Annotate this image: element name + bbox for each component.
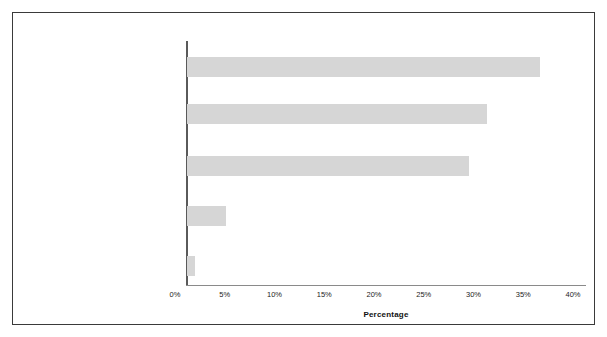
x-axis-line: [186, 285, 586, 286]
figure-container: Neglect only (35.5%) Multiple maltreatme…: [0, 0, 607, 337]
x-axis-title: Percentage: [186, 310, 586, 319]
bar-phychological-other-unknown-only: [187, 206, 226, 226]
bar-sexual-abuse-only: [187, 256, 195, 276]
plot-area: [187, 41, 585, 285]
bar-neglect-only: [187, 57, 540, 77]
x-tick-label-0: 0%: [155, 290, 195, 299]
x-tick-label-10: 10%: [255, 290, 295, 299]
x-tick-label-15: 15%: [304, 290, 344, 299]
bar-physical-abuse-only: [187, 156, 469, 176]
x-tick-label-20: 20%: [354, 290, 394, 299]
x-tick-label-25: 25%: [404, 290, 444, 299]
x-tick-label-40: 40%: [553, 290, 593, 299]
x-tick-label-35: 35%: [503, 290, 543, 299]
x-tick-label-30: 30%: [454, 290, 494, 299]
bar-multiple-maltreatment-types: [187, 104, 487, 124]
figure-frame: Neglect only (35.5%) Multiple maltreatme…: [12, 12, 595, 325]
x-tick-label-5: 5%: [205, 290, 245, 299]
